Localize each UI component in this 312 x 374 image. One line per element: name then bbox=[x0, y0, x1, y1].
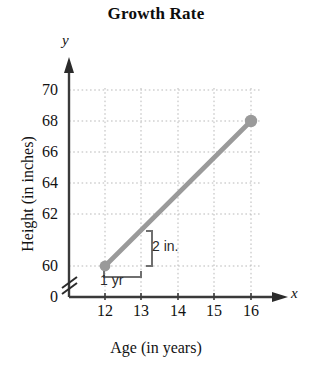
x-tick-label-12: 12 bbox=[92, 302, 118, 320]
data-point-marker-end bbox=[245, 115, 257, 127]
x-tick-label-14: 14 bbox=[165, 302, 191, 320]
slope-triangle-brackets bbox=[104, 231, 152, 277]
data-point-marker-start bbox=[100, 261, 111, 272]
y-axis bbox=[64, 57, 74, 297]
annotation-run: 1 yr bbox=[100, 272, 123, 288]
y-axis-letter: y bbox=[62, 32, 69, 49]
x-axis-letter: x bbox=[291, 285, 298, 302]
x-axis-arrow bbox=[272, 292, 288, 302]
y-tick-label-70: 70 bbox=[28, 81, 58, 99]
annotation-rise: 2 in. bbox=[152, 238, 178, 254]
y-origin-label: 0 bbox=[28, 288, 58, 306]
y-axis-title: Height (in inches) bbox=[19, 114, 37, 274]
y-axis-arrow bbox=[64, 57, 74, 73]
x-tick-label-16: 16 bbox=[238, 302, 264, 320]
x-axis-title: Age (in years) bbox=[0, 339, 312, 357]
chart-figure: Growth Rate bbox=[0, 0, 312, 374]
x-tick-label-13: 13 bbox=[128, 302, 154, 320]
x-tick-label-15: 15 bbox=[201, 302, 227, 320]
